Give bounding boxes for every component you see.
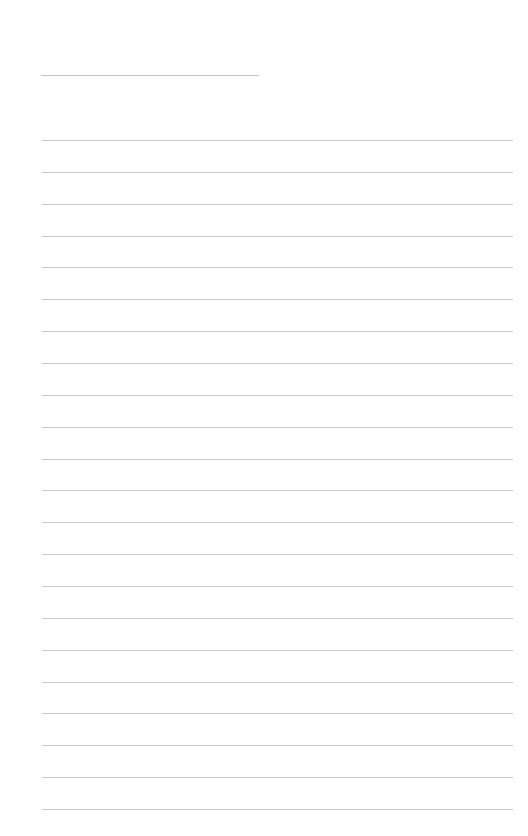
ruled-line — [42, 522, 513, 523]
ruled-line — [42, 395, 513, 396]
ruled-line — [42, 745, 513, 746]
title-line — [41, 75, 259, 76]
ruled-line — [42, 299, 513, 300]
ruled-line — [42, 650, 513, 651]
ruled-line — [42, 172, 513, 173]
ruled-line — [42, 586, 513, 587]
ruled-line — [42, 236, 513, 237]
ruled-line — [42, 777, 513, 778]
ruled-line — [42, 363, 513, 364]
ruled-line — [42, 618, 513, 619]
ruled-line — [42, 682, 513, 683]
ruled-line — [42, 204, 513, 205]
ruled-line — [42, 490, 513, 491]
ruled-line — [42, 331, 513, 332]
lined-paper-page — [0, 0, 528, 836]
ruled-line — [42, 140, 513, 141]
ruled-line — [42, 554, 513, 555]
ruled-line — [42, 713, 513, 714]
ruled-line — [42, 809, 513, 810]
ruled-line — [42, 459, 513, 460]
ruled-line — [42, 267, 513, 268]
ruled-line — [42, 427, 513, 428]
